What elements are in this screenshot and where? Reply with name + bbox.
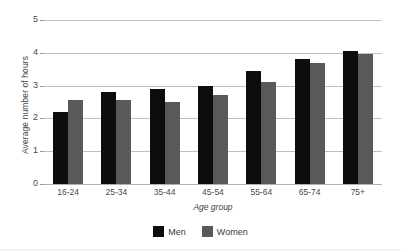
bars-layer (44, 20, 382, 184)
x-axis-title: Age group (44, 202, 382, 212)
y-axis-tick-label: 1 (22, 146, 38, 155)
bar-women-25-34 (116, 100, 131, 184)
legend-label: Men (168, 227, 186, 237)
y-axis-tick-labels: 012345 (22, 0, 38, 251)
bar-group (92, 20, 140, 184)
legend-label: Women (217, 227, 248, 237)
plot-area (44, 20, 382, 184)
bar-group (285, 20, 333, 184)
y-axis-tick-label: 4 (22, 48, 38, 57)
chart-legend: MenWomen (0, 226, 401, 237)
y-axis-tick-label: 2 (22, 113, 38, 122)
women-swatch-icon (202, 226, 213, 237)
bar-group (334, 20, 382, 184)
x-axis-tick-label: 25-34 (92, 187, 140, 197)
y-axis-tick-label: 0 (22, 179, 38, 188)
bar-men-75+ (343, 51, 358, 184)
x-axis-tick-label: 35-44 (141, 187, 189, 197)
x-axis-tick-label: 75+ (334, 187, 382, 197)
bar-women-55-64 (261, 82, 276, 184)
bar-women-45-54 (213, 95, 228, 184)
gridline (44, 184, 382, 185)
bar-women-75+ (358, 54, 373, 184)
y-axis-tick-label: 3 (22, 81, 38, 90)
x-axis-tick-label: 55-64 (237, 187, 285, 197)
bar-group (44, 20, 92, 184)
legend-item-men[interactable]: Men (153, 226, 186, 237)
bar-group (189, 20, 237, 184)
legend-item-women[interactable]: Women (202, 226, 248, 237)
bar-women-16-24 (68, 100, 83, 184)
x-axis-tick-label: 16-24 (44, 187, 92, 197)
bar-men-45-54 (198, 86, 213, 184)
bar-group (141, 20, 189, 184)
bar-chart: Average number of hours 012345 16-2425-3… (0, 0, 401, 251)
bar-men-55-64 (246, 71, 261, 184)
y-axis-tickmark (40, 184, 44, 185)
bar-men-25-34 (101, 92, 116, 184)
men-swatch-icon (153, 226, 164, 237)
bar-men-16-24 (53, 112, 68, 184)
x-axis-tick-label: 45-54 (189, 187, 237, 197)
bar-women-35-44 (165, 102, 180, 184)
x-axis-tick-labels: 16-2425-3435-4445-5455-6465-7475+ (44, 187, 382, 201)
bar-men-65-74 (295, 59, 310, 184)
bar-women-65-74 (310, 63, 325, 184)
bar-men-35-44 (150, 89, 165, 184)
x-axis-tick-label: 65-74 (285, 187, 333, 197)
bar-group (237, 20, 285, 184)
y-axis-tick-label: 5 (22, 15, 38, 24)
